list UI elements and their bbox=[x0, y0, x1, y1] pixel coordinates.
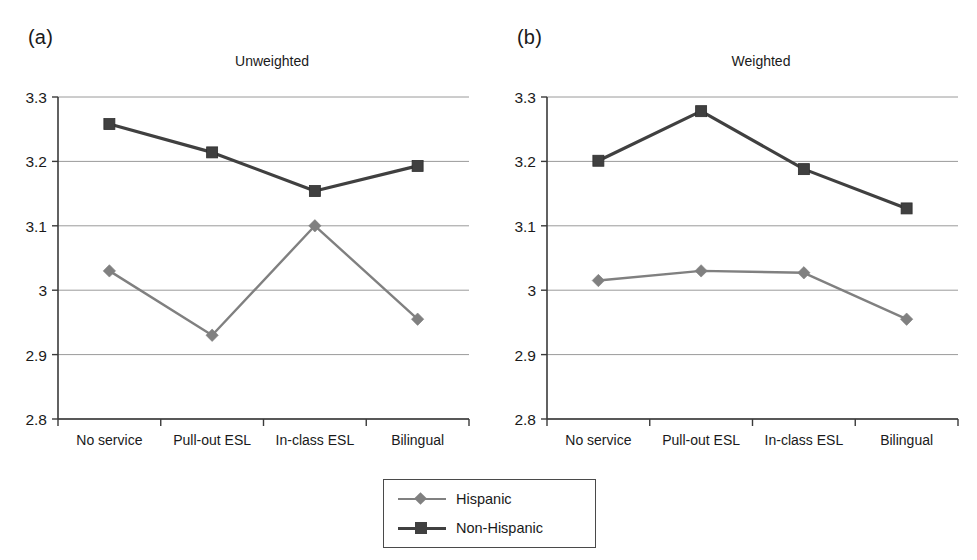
figure-canvas: (a) Unweighted 3.33.23.132.92.8No servic… bbox=[0, 0, 977, 560]
x-category-label: Pull-out ESL bbox=[173, 432, 251, 448]
y-tick-label: 3.3 bbox=[514, 89, 536, 106]
diamond-marker-icon bbox=[414, 492, 427, 505]
legend-item-hispanic: Hispanic bbox=[398, 489, 512, 509]
data-point-square bbox=[412, 160, 423, 171]
y-tick-label: 3.1 bbox=[514, 218, 536, 235]
data-point-square bbox=[593, 155, 604, 166]
legend-swatch-hispanic bbox=[398, 491, 446, 507]
data-point-diamond bbox=[103, 265, 115, 277]
data-point-square bbox=[309, 186, 320, 197]
y-tick-label: 3 bbox=[38, 282, 47, 299]
x-category-label: No service bbox=[565, 432, 631, 448]
y-tick-label: 2.8 bbox=[514, 411, 536, 428]
legend-swatch-non-hispanic bbox=[398, 520, 446, 536]
plot-area-b: 3.33.23.132.92.8No servicePull-out ESLIn… bbox=[489, 0, 977, 470]
x-category-label: Bilingual bbox=[391, 432, 444, 448]
legend-label-hispanic: Hispanic bbox=[456, 491, 512, 507]
y-tick-label: 3.1 bbox=[25, 218, 47, 235]
plot-area-a: 3.33.23.132.92.8No servicePull-out ESLIn… bbox=[0, 0, 488, 470]
y-tick-label: 3.2 bbox=[25, 153, 47, 170]
data-point-square bbox=[207, 147, 218, 158]
x-category-label: In-class ESL bbox=[765, 432, 844, 448]
legend-item-non-hispanic: Non-Hispanic bbox=[398, 518, 543, 538]
data-point-square bbox=[901, 203, 912, 214]
data-point-square bbox=[104, 119, 115, 130]
series-line-non-hispanic bbox=[598, 111, 906, 208]
series-line-hispanic bbox=[109, 226, 417, 335]
data-point-diamond bbox=[798, 267, 810, 279]
chart-panel-a: (a) Unweighted 3.33.23.132.92.8No servic… bbox=[0, 0, 488, 470]
data-point-diamond bbox=[592, 274, 604, 286]
square-marker-icon bbox=[415, 522, 427, 534]
y-tick-label: 3.3 bbox=[25, 89, 47, 106]
x-category-label: No service bbox=[76, 432, 142, 448]
chart-panel-b: (b) Weighted 3.33.23.132.92.8No serviceP… bbox=[489, 0, 977, 470]
data-point-diamond bbox=[695, 265, 707, 277]
y-tick-label: 2.9 bbox=[514, 347, 536, 364]
series-line-non-hispanic bbox=[109, 124, 417, 191]
y-tick-label: 3 bbox=[527, 282, 536, 299]
y-tick-label: 2.9 bbox=[25, 347, 47, 364]
data-point-square bbox=[696, 106, 707, 117]
chart-legend: Hispanic Non-Hispanic bbox=[383, 479, 596, 548]
x-category-label: Bilingual bbox=[880, 432, 933, 448]
x-category-label: In-class ESL bbox=[276, 432, 355, 448]
x-category-label: Pull-out ESL bbox=[662, 432, 740, 448]
y-tick-label: 2.8 bbox=[25, 411, 47, 428]
legend-label-non-hispanic: Non-Hispanic bbox=[456, 520, 543, 536]
data-point-diamond bbox=[900, 313, 912, 325]
series-line-hispanic bbox=[598, 271, 906, 319]
data-point-square bbox=[798, 164, 809, 175]
y-tick-label: 3.2 bbox=[514, 153, 536, 170]
